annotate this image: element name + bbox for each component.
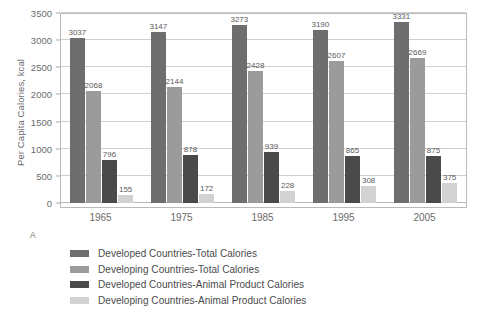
bar: 2428 xyxy=(248,71,264,203)
bar: 939 xyxy=(264,152,280,203)
bar-value-label: 796 xyxy=(103,150,116,159)
legend-item[interactable]: Developed Countries-Total Calories xyxy=(70,246,430,262)
bar-value-label: 3147 xyxy=(149,22,167,31)
legend-item[interactable]: Developing Countries-Animal Product Calo… xyxy=(70,293,430,309)
bar-value-label: 865 xyxy=(346,146,359,155)
x-tick-label-1985: 1985 xyxy=(251,212,273,223)
bar-value-label: 2428 xyxy=(247,61,265,70)
bar-value-label: 228 xyxy=(281,181,294,190)
bar: 155 xyxy=(118,195,134,203)
x-tick-label-2005: 2005 xyxy=(413,212,435,223)
bar: 3190 xyxy=(313,30,329,203)
bar-groups: 3037206879615531472144878172327324289392… xyxy=(61,14,466,207)
bar-value-label: 3190 xyxy=(311,20,329,29)
bar: 375 xyxy=(442,183,458,203)
bar-value-label: 3331 xyxy=(392,12,410,21)
bar-value-label: 2607 xyxy=(328,51,346,60)
bar: 2669 xyxy=(410,58,426,203)
y-axis-ticks: 0500100015002000250030003500 xyxy=(0,0,60,316)
bar: 878 xyxy=(183,155,199,203)
bar: 875 xyxy=(426,156,442,204)
legend-label: Developing Countries-Total Calories xyxy=(98,264,259,275)
legend-item[interactable]: Developed Countries-Animal Product Calor… xyxy=(70,277,430,293)
bar: 3331 xyxy=(394,22,410,203)
legend-swatch-icon xyxy=(70,250,89,257)
bar-value-label: 172 xyxy=(200,184,213,193)
legend-swatch-icon xyxy=(70,266,89,273)
bar: 2068 xyxy=(86,91,102,203)
legend-swatch-icon xyxy=(70,281,89,288)
y-tick-label-2500: 2500 xyxy=(0,62,52,73)
y-tick-label-3500: 3500 xyxy=(0,8,52,19)
bar: 2607 xyxy=(329,61,345,203)
panel-letter: A xyxy=(30,230,36,240)
bar: 2144 xyxy=(167,87,183,203)
x-tick-label-1975: 1975 xyxy=(170,212,192,223)
x-tick-label-1965: 1965 xyxy=(89,212,111,223)
figure-panel-a: Per Capita Calories, kcal 05001000150020… xyxy=(0,0,488,316)
y-tick-label-2000: 2000 xyxy=(0,89,52,100)
y-tick-label-0: 0 xyxy=(0,198,52,209)
bar: 865 xyxy=(345,156,361,203)
bar-value-label: 878 xyxy=(184,145,197,154)
bar-value-label: 875 xyxy=(427,146,440,155)
bar: 3147 xyxy=(151,32,167,203)
legend-item[interactable]: Developing Countries-Total Calories xyxy=(70,262,430,278)
bar: 308 xyxy=(361,186,377,203)
bar: 3273 xyxy=(232,25,248,203)
bar-value-label: 2068 xyxy=(85,81,103,90)
x-tick-label-1995: 1995 xyxy=(332,212,354,223)
x-axis-ticks: 19651975198519952005 xyxy=(60,212,467,228)
bar: 172 xyxy=(199,194,215,203)
y-tick-label-1000: 1000 xyxy=(0,143,52,154)
y-tick-label-500: 500 xyxy=(0,170,52,181)
legend-swatch-icon xyxy=(70,297,89,304)
legend-label: Developed Countries-Total Calories xyxy=(98,248,257,259)
bar-value-label: 2669 xyxy=(409,48,427,57)
y-tick-label-3000: 3000 xyxy=(0,35,52,46)
bar: 228 xyxy=(280,191,296,203)
bar-value-label: 308 xyxy=(362,176,375,185)
plot-area: 3037206879615531472144878172327324289392… xyxy=(60,13,467,208)
legend-label: Developed Countries-Animal Product Calor… xyxy=(98,279,304,290)
bar-value-label: 939 xyxy=(265,142,278,151)
bar: 796 xyxy=(102,160,118,203)
chart-legend: Developed Countries-Total CaloriesDevelo… xyxy=(70,246,430,308)
bar: 3037 xyxy=(70,38,86,203)
y-tick-label-1500: 1500 xyxy=(0,116,52,127)
bar-value-label: 375 xyxy=(443,173,456,182)
bar-value-label: 3037 xyxy=(68,28,86,37)
bar-value-label: 2144 xyxy=(166,77,184,86)
bar-value-label: 3273 xyxy=(230,15,248,24)
legend-label: Developing Countries-Animal Product Calo… xyxy=(98,295,306,306)
bar-value-label: 155 xyxy=(119,185,132,194)
